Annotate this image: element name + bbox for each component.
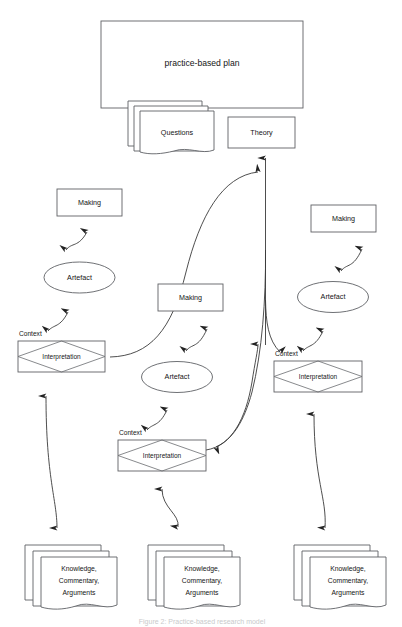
figure-caption: Figure 2: Practice-based research model <box>139 618 266 626</box>
left-knowledge-document-stack: Knowledge, Commentary, Arguments <box>25 545 117 609</box>
questions-document-stack: Questions <box>128 101 214 154</box>
left-artefact-interpretation-arrow <box>48 312 68 331</box>
middle-artefact-label: Artefact <box>165 372 190 381</box>
right-knowledge-line-3: Arguments <box>332 589 365 597</box>
left-making-label: Making <box>78 198 101 207</box>
theory-box: Theory <box>228 117 295 148</box>
left-artefact-ellipse: Artefact <box>44 262 115 293</box>
practice-based-plan-box: practice-based plan <box>101 21 303 108</box>
middle-interpretation-label: Interpretation <box>143 452 182 460</box>
right-artefact-ellipse: Artefact <box>298 282 369 313</box>
middle-knowledge-line-2: Commentary, <box>182 577 222 585</box>
right-artefact-interpretation-arrow <box>303 331 323 351</box>
middle-knowledge-line-3: Arguments <box>186 589 219 597</box>
left-interpretation-label: Interpretation <box>42 353 81 361</box>
left-knowledge-line-1: Knowledge, <box>61 565 97 573</box>
left-interpretation-to-spine-arrow <box>110 172 258 357</box>
middle-knowledge-line-1: Knowledge, <box>184 565 220 573</box>
left-knowledge-line-2: Commentary, <box>59 577 99 585</box>
spine-to-middle-context-arrow <box>216 250 266 447</box>
right-interpretation-label: Interpretation <box>299 373 338 381</box>
spine-to-right-context-arrow <box>266 300 281 352</box>
practice-based-plan-label: practice-based plan <box>164 58 239 68</box>
left-context-box: Context Interpretation <box>18 330 105 372</box>
right-making-box: Making <box>311 205 376 232</box>
questions-label: Questions <box>161 128 194 137</box>
middle-making-artefact-arrow <box>186 329 207 351</box>
left-context-label: Context <box>19 330 42 337</box>
right-knowledge-document-stack: Knowledge, Commentary, Arguments <box>294 545 386 609</box>
left-making-artefact-arrow <box>66 232 87 250</box>
diagram-canvas: practice-based plan Questions Theory Mak… <box>0 0 402 627</box>
branch-left: Making Artefact Context Interpretation K… <box>18 189 122 609</box>
branch-right: Making Artefact Context Interpretation K… <box>274 205 386 609</box>
middle-interpretation-knowledge-arrow <box>162 489 178 527</box>
right-making-label: Making <box>332 214 355 223</box>
right-interpretation-knowledge-arrow <box>314 414 325 528</box>
middle-artefact-interpretation-arrow <box>147 410 167 430</box>
left-interpretation-knowledge-arrow <box>46 396 57 528</box>
middle-making-label: Making <box>179 293 202 302</box>
right-context-label: Context <box>275 350 298 357</box>
left-making-box: Making <box>57 189 122 216</box>
left-knowledge-line-3: Arguments <box>63 589 96 597</box>
middle-knowledge-document-stack: Knowledge, Commentary, Arguments <box>148 545 240 609</box>
theory-label: Theory <box>250 128 273 137</box>
middle-context-label: Context <box>119 429 142 436</box>
right-knowledge-line-1: Knowledge, <box>330 565 366 573</box>
right-artefact-label: Artefact <box>321 292 346 301</box>
right-knowledge-line-2: Commentary, <box>328 577 368 585</box>
right-making-artefact-arrow <box>341 249 362 271</box>
practice-based-plan-diagram: practice-based plan Questions Theory Mak… <box>0 0 402 627</box>
middle-context-box: Context Interpretation <box>118 429 206 471</box>
right-context-box: Context Interpretation <box>274 350 362 392</box>
middle-artefact-ellipse: Artefact <box>142 362 213 393</box>
middle-making-box: Making <box>158 284 223 311</box>
branch-middle: Making Artefact Context Interpretation K… <box>118 284 240 609</box>
left-artefact-label: Artefact <box>67 273 92 282</box>
